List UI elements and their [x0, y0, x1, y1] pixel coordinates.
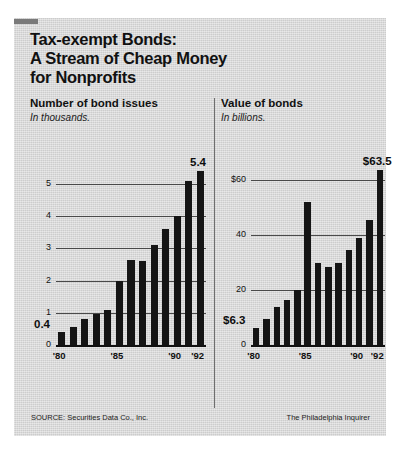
y-axis-tick-label: 20	[221, 285, 246, 294]
bar	[335, 263, 341, 346]
gridline	[251, 180, 385, 181]
x-axis-tick-label: '90	[350, 350, 363, 361]
bar	[139, 261, 146, 345]
bar	[294, 290, 300, 345]
bar	[356, 238, 362, 345]
y-axis-tick-label: 0	[221, 340, 246, 349]
gridline	[56, 248, 206, 249]
bar	[58, 332, 65, 345]
publication-credit: The Philadelphia Inquirer	[287, 413, 370, 422]
bar	[116, 281, 123, 345]
bar	[197, 171, 204, 345]
source-note: SOURCE: Securities Data Co., Inc.	[31, 413, 148, 422]
page-title: Tax-exempt Bonds: A Stream of Cheap Mone…	[30, 30, 360, 87]
gridline	[56, 216, 206, 217]
x-axis-tick-label: '92	[191, 350, 204, 361]
bar	[263, 319, 269, 345]
bar	[81, 319, 88, 345]
bar-chart-value-of-bonds: 02040$60'80'85'90'92$6.3$63.5	[221, 148, 387, 363]
bar	[274, 307, 280, 346]
data-callout-label: $6.3	[223, 314, 245, 326]
bar	[253, 328, 259, 345]
x-axis-tick-label: '90	[168, 350, 181, 361]
y-axis-tick-label: 1	[30, 308, 51, 317]
bar	[70, 327, 77, 345]
scan-artifact	[14, 19, 38, 24]
y-axis-tick-label: 40	[221, 230, 246, 239]
y-axis-tick-label: 3	[30, 243, 51, 252]
infographic-panel: Tax-exempt Bonds: A Stream of Cheap Mone…	[14, 18, 386, 436]
gridline	[56, 184, 206, 185]
bar	[377, 170, 383, 345]
title-line-2: A Stream of Cheap Money	[30, 49, 360, 68]
panel-divider	[214, 98, 215, 408]
x-axis-tick-label: '80	[247, 350, 260, 361]
bar	[346, 250, 352, 345]
y-axis-tick-label: 4	[30, 211, 51, 220]
bar	[284, 300, 290, 345]
chart-title-left: Number of bond issues	[30, 96, 208, 110]
chart-header-right: Value of bonds In billions.	[221, 96, 386, 124]
title-line-1: Tax-exempt Bonds:	[30, 30, 360, 49]
chart-title-right: Value of bonds	[221, 96, 386, 110]
chart-subtitle-right: In billions.	[221, 111, 386, 124]
bar	[162, 229, 169, 345]
x-axis-tick-label: '80	[53, 350, 66, 361]
bar	[315, 263, 321, 346]
data-callout-label: 5.4	[190, 156, 206, 168]
bar	[127, 260, 134, 345]
y-axis-tick-label: $60	[221, 175, 246, 184]
gridline	[251, 235, 385, 236]
y-axis-tick-label: 2	[30, 276, 51, 285]
x-axis-tick-label: '85	[299, 350, 312, 361]
bar	[185, 181, 192, 345]
bar	[366, 220, 372, 345]
bar-chart-number-of-bond-issues: 012345'80'85'90'920.45.4	[30, 148, 208, 363]
bar	[304, 202, 310, 345]
bar	[325, 267, 331, 345]
data-callout-label: 0.4	[34, 318, 50, 330]
chart-subtitle-left: In thousands.	[30, 111, 208, 124]
x-axis-tick-label: '85	[110, 350, 123, 361]
title-line-3: for Nonprofits	[30, 68, 360, 87]
chart-header-left: Number of bond issues In thousands.	[30, 96, 208, 124]
bar	[151, 245, 158, 345]
x-axis-baseline	[56, 345, 206, 347]
bar	[93, 314, 100, 345]
y-axis-tick-label: 5	[30, 179, 51, 188]
bar	[174, 216, 181, 345]
bar	[104, 310, 111, 345]
x-axis-baseline	[251, 345, 385, 347]
y-axis-tick-label: 0	[30, 340, 51, 349]
x-axis-tick-label: '92	[371, 350, 384, 361]
data-callout-label: $63.5	[363, 155, 392, 167]
